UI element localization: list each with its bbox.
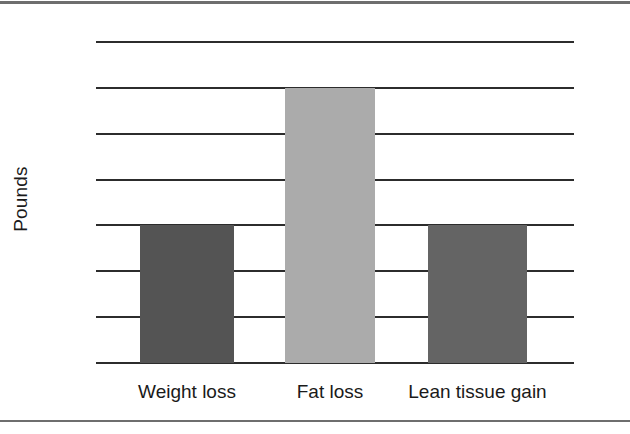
plot-area: 01234567 xyxy=(96,42,574,363)
y-axis-title: Pounds xyxy=(10,144,32,254)
x-axis-category-label: Lean tissue gain xyxy=(368,381,588,403)
bar[interactable] xyxy=(428,225,527,363)
bar[interactable] xyxy=(285,88,375,363)
page-rule-bottom xyxy=(0,420,630,422)
gridline xyxy=(96,41,574,43)
bar-chart-figure: Pounds 01234567 Weight lossFat lossLean … xyxy=(0,4,630,418)
bar[interactable] xyxy=(140,225,234,363)
